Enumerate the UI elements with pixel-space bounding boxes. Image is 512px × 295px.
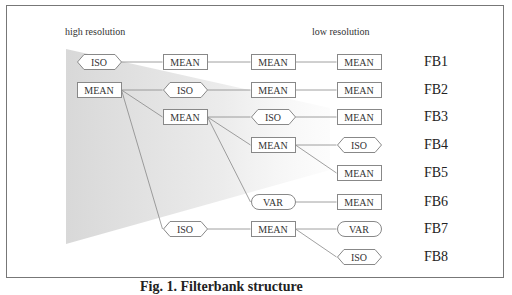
mean-node: MEAN xyxy=(251,137,296,153)
node-label: MEAN xyxy=(344,112,373,123)
mean-node: MEAN xyxy=(251,82,296,98)
node-label: MEAN xyxy=(344,168,373,179)
iso-node: ISO xyxy=(163,221,208,237)
node-label: MEAN xyxy=(258,85,287,96)
mean-node: MEAN xyxy=(163,109,208,125)
node-label: MEAN xyxy=(258,140,287,151)
figure-caption: Fig. 1. Filterbank structure xyxy=(140,279,303,295)
mean-node: MEAN xyxy=(251,221,296,237)
node-label: ISO xyxy=(177,224,193,235)
iso-node: ISO xyxy=(337,137,382,153)
iso-node: ISO xyxy=(251,109,296,125)
mean-node: MEAN xyxy=(337,165,382,181)
fb-label: FB7 xyxy=(424,221,448,237)
fb-label: FB3 xyxy=(424,109,448,125)
mean-node: MEAN xyxy=(251,54,296,70)
fb-label: FB6 xyxy=(424,194,448,210)
node-label: ISO xyxy=(351,140,367,151)
var-node: VAR xyxy=(251,194,296,210)
fb-label: FB2 xyxy=(424,82,448,98)
node-label: VAR xyxy=(349,224,369,235)
node-label: MEAN xyxy=(170,112,199,123)
mean-node: MEAN xyxy=(337,54,382,70)
iso-node: ISO xyxy=(77,54,122,70)
node-label: MEAN xyxy=(84,85,113,96)
node-label: MEAN xyxy=(344,85,373,96)
node-label: MEAN xyxy=(258,224,287,235)
node-label: ISO xyxy=(265,112,281,123)
mean-node: MEAN xyxy=(163,54,208,70)
mean-node: MEAN xyxy=(337,194,382,210)
high-resolution-label: high resolution xyxy=(65,26,125,37)
fb-label: FB8 xyxy=(424,249,448,265)
node-label: ISO xyxy=(351,252,367,263)
node-label: VAR xyxy=(263,197,283,208)
node-label: MEAN xyxy=(258,57,287,68)
mean-node: MEAN xyxy=(77,82,122,98)
fb-label: FB1 xyxy=(424,54,448,70)
node-label: MEAN xyxy=(344,57,373,68)
iso-node: ISO xyxy=(337,249,382,265)
var-node: VAR xyxy=(337,221,382,237)
fb-label: FB4 xyxy=(424,137,448,153)
mean-node: MEAN xyxy=(337,109,382,125)
iso-node: ISO xyxy=(163,82,208,98)
mean-node: MEAN xyxy=(337,82,382,98)
node-label: ISO xyxy=(91,57,107,68)
node-label: MEAN xyxy=(344,197,373,208)
fb-label: FB5 xyxy=(424,165,448,181)
edge-line xyxy=(296,229,337,257)
node-label: ISO xyxy=(177,85,193,96)
low-resolution-label: low resolution xyxy=(312,26,370,37)
node-label: MEAN xyxy=(170,57,199,68)
